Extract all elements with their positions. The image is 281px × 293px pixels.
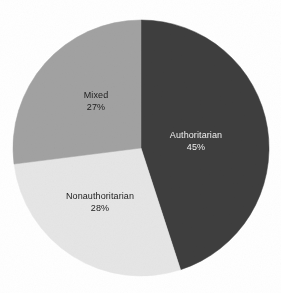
pie-chart-graphic: [0, 0, 281, 293]
pie-chart-figure: Authoritarian 45% Nonauthoritarian 28% M…: [0, 0, 281, 293]
pie-slice-mixed: [13, 20, 141, 164]
pie-slice-group: [13, 20, 269, 276]
